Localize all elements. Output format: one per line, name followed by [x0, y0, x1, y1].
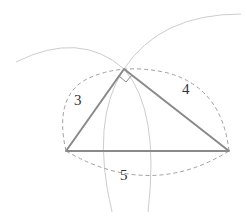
- side-label-3: 3: [74, 92, 82, 108]
- side-label-4: 4: [182, 81, 190, 97]
- right-triangle: [66, 69, 229, 151]
- diagram-canvas: 3 4 5: [0, 0, 247, 224]
- triangle-construction-svg: 3 4 5: [0, 0, 247, 224]
- side-label-5: 5: [120, 167, 128, 183]
- dashed-arc-bottom: [66, 151, 229, 176]
- dashed-arc-top: [63, 69, 229, 151]
- construction-arc-left: [16, 48, 151, 212]
